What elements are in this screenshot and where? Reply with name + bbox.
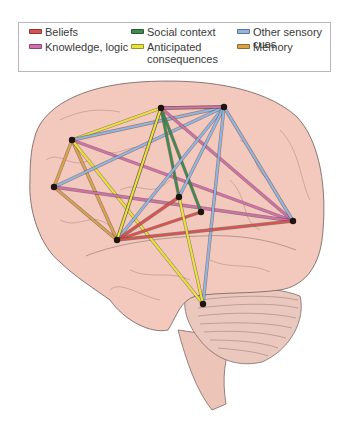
node-d: [176, 194, 182, 200]
node-r: [290, 218, 296, 224]
node-a: [158, 105, 164, 111]
node-f: [200, 301, 206, 307]
node-c: [114, 237, 120, 243]
node-l1: [69, 137, 75, 143]
brain-diagram: [0, 0, 344, 427]
edge-knowledge-logic: [161, 107, 224, 108]
node-l2: [51, 184, 57, 190]
node-e: [198, 209, 204, 215]
node-b: [221, 104, 227, 110]
